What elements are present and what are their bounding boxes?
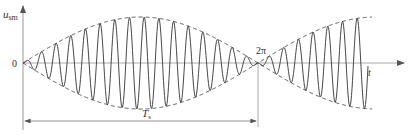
- phase-2pi-label: 2π: [256, 45, 266, 56]
- beat-waveform-diagram: usm 0 t 2π Ts: [0, 0, 409, 135]
- origin-label: 0: [12, 58, 17, 69]
- waveform-canvas: usm 0 t 2π Ts: [0, 0, 409, 135]
- x-axis-label: t: [368, 67, 371, 78]
- period-label: Ts: [142, 107, 151, 121]
- upper-envelope: [23, 17, 372, 63]
- y-axis-label: usm: [3, 8, 19, 22]
